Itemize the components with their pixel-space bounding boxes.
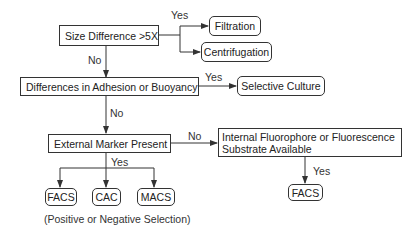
node-macs-label: MACS bbox=[141, 191, 171, 203]
node-adhesion-buoyancy-label: Differences in Adhesion or Buoyancy bbox=[26, 81, 197, 93]
node-internal-fluorophore-line1: Internal Fluorophore or Fluorescence bbox=[222, 131, 395, 143]
node-centrifugation-label: Centrifugation bbox=[204, 46, 269, 58]
node-facs-internal-label: FACS bbox=[292, 187, 319, 199]
node-filtration: Filtration bbox=[209, 16, 261, 36]
node-external-marker: External Marker Present bbox=[48, 134, 171, 153]
node-facs-label: FACS bbox=[47, 191, 74, 203]
node-size-difference: Size Difference >5X bbox=[59, 25, 159, 46]
node-size-difference-label: Size Difference >5X bbox=[65, 30, 158, 42]
node-internal-fluorophore: Internal Fluorophore or Fluorescence Sub… bbox=[218, 128, 402, 157]
selection-caption: (Positive or Negative Selection) bbox=[44, 213, 190, 225]
edge-label-external-no: No bbox=[188, 130, 201, 142]
node-facs: FACS bbox=[45, 188, 77, 206]
edge-label-external-yes: Yes bbox=[111, 156, 128, 168]
node-selective-culture-label: Selective Culture bbox=[241, 80, 320, 92]
node-internal-fluorophore-line2: Substrate Available bbox=[222, 143, 312, 155]
edge-label-adhesion-yes: Yes bbox=[205, 71, 222, 83]
edge-label-internal-yes: Yes bbox=[313, 165, 330, 177]
node-adhesion-buoyancy: Differences in Adhesion or Buoyancy bbox=[20, 77, 199, 96]
node-filtration-label: Filtration bbox=[215, 20, 255, 32]
node-centrifugation: Centrifugation bbox=[201, 42, 272, 62]
edge-label-size-no: No bbox=[88, 54, 101, 66]
node-facs-internal: FACS bbox=[288, 184, 323, 201]
node-macs: MACS bbox=[137, 188, 175, 206]
edge-label-size-yes: Yes bbox=[171, 9, 188, 21]
node-selective-culture: Selective Culture bbox=[237, 76, 325, 96]
node-cac: CAC bbox=[92, 188, 121, 206]
edge-label-adhesion-no: No bbox=[110, 107, 123, 119]
node-cac-label: CAC bbox=[95, 191, 117, 203]
node-external-marker-label: External Marker Present bbox=[54, 138, 167, 150]
